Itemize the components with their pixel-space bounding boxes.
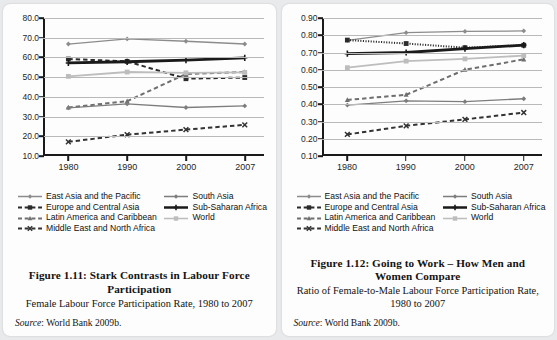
- data-point-marker: [521, 53, 526, 58]
- caption-left: Figure 1.11: Stark Contrasts in Labour F…: [3, 265, 276, 336]
- data-point-marker: [452, 205, 457, 211]
- legend-label: World: [192, 213, 214, 223]
- legend-item: South Asia: [163, 192, 233, 202]
- data-point-marker: [462, 29, 467, 34]
- legend-label: Latin America and Caribbean: [325, 213, 436, 223]
- source-text-right: : World Bank 2009b.: [320, 317, 400, 328]
- y-tick-label: 0.90: [301, 14, 318, 23]
- y-tick-mark: [39, 37, 44, 39]
- data-point-marker: [403, 59, 408, 64]
- y-tick-label: 0.50: [301, 83, 318, 92]
- x-tick-mark: [127, 156, 129, 161]
- legend-label: South Asia: [471, 192, 512, 202]
- source-label-right: Source: [294, 317, 320, 328]
- x-tick-label: 1980: [337, 163, 357, 172]
- data-point-marker: [174, 195, 178, 199]
- data-point-marker: [344, 38, 349, 43]
- legend-label: Sub-Saharan Africa: [192, 203, 267, 213]
- y-tick-mark: [318, 138, 323, 140]
- x-tick-mark: [405, 156, 407, 161]
- y-tick-mark: [39, 155, 44, 157]
- y-tick-label: 20.0: [22, 132, 39, 141]
- legend-marker-icon: [442, 214, 468, 223]
- plot-area-left: 10.020.030.040.050.060.070.080.019801990…: [43, 18, 264, 156]
- x-tick-mark: [185, 156, 187, 161]
- y-tick-label: 80.0: [22, 14, 39, 23]
- legend-label: South Asia: [192, 192, 233, 202]
- figure-title-right: Figure 1.12: Going to Work – How Men and…: [294, 257, 543, 284]
- legend-label: Europe and Central Asia: [325, 203, 418, 213]
- gridline: [43, 117, 264, 118]
- legend-item: Europe and Central Asia: [17, 203, 159, 213]
- legend-item: World: [163, 213, 214, 223]
- figure-source-right: Source: World Bank 2009b.: [294, 317, 543, 328]
- legend-item: Sub-Saharan Africa: [442, 203, 546, 213]
- data-point-marker: [242, 70, 247, 75]
- y-tick-mark: [318, 155, 323, 157]
- gridline: [322, 122, 543, 123]
- legend-marker-icon: [163, 203, 189, 212]
- figure-subtitle-right: Ratio of Female-to-Male Labour Force Par…: [294, 285, 543, 310]
- y-tick-mark: [39, 135, 44, 137]
- y-tick-label: 0.20: [301, 135, 318, 144]
- legend-item: Latin America and Caribbean: [296, 213, 438, 223]
- x-tick-mark: [68, 156, 70, 161]
- legend-marker-icon: [163, 214, 189, 223]
- legend-label: East Asia and the Pacific: [325, 192, 420, 202]
- series-line: [68, 39, 244, 44]
- data-point-marker: [453, 195, 457, 199]
- legend-marker-icon: [17, 214, 43, 223]
- legend-marker-icon: [17, 203, 43, 212]
- y-tick-mark: [318, 86, 323, 88]
- legend-item: Europe and Central Asia: [296, 203, 438, 213]
- y-tick-label: 50.0: [22, 73, 39, 82]
- x-tick-mark: [523, 156, 525, 161]
- data-point-marker: [306, 205, 310, 209]
- y-tick-mark: [318, 103, 323, 105]
- legend-label: Sub-Saharan Africa: [471, 203, 546, 213]
- data-point-marker: [66, 42, 71, 47]
- legend-label: World: [471, 213, 493, 223]
- chart-left: 10.020.030.040.050.060.070.080.019801990…: [7, 10, 272, 186]
- x-tick-label: 1990: [117, 163, 137, 172]
- y-tick-mark: [39, 96, 44, 98]
- x-tick-label: 2007: [514, 163, 534, 172]
- source-label-left: Source: [15, 317, 41, 328]
- legend-spacer: [442, 224, 548, 234]
- y-tick-mark: [39, 116, 44, 118]
- data-point-marker: [125, 70, 130, 75]
- figure-title-left: Figure 1.11: Stark Contrasts in Labour F…: [15, 269, 264, 296]
- data-point-marker: [403, 41, 408, 46]
- y-tick-mark: [318, 17, 323, 19]
- gridline: [322, 18, 543, 19]
- data-point-marker: [403, 98, 408, 103]
- legend-marker-icon: [442, 203, 468, 212]
- x-tick-mark: [346, 156, 348, 161]
- gridline: [322, 139, 543, 140]
- series-line: [347, 56, 523, 68]
- y-tick-label: 0.30: [301, 117, 318, 126]
- x-tick-label: 2000: [455, 163, 475, 172]
- y-tick-label: 30.0: [22, 112, 39, 121]
- gridline: [43, 136, 264, 137]
- legend-spacer: [163, 224, 269, 234]
- legend-marker-icon: [296, 214, 322, 223]
- figure-panel-right: 0.100.200.300.400.500.600.700.800.901980…: [282, 4, 555, 336]
- y-tick-label: 70.0: [22, 33, 39, 42]
- y-tick-label: 40.0: [22, 93, 39, 102]
- legend-item: Latin America and Caribbean: [17, 213, 159, 223]
- legend-marker-icon: [17, 192, 43, 201]
- figure-source-left: Source: World Bank 2009b.: [15, 317, 264, 328]
- y-tick-label: 60.0: [22, 53, 39, 62]
- series-line: [68, 125, 244, 142]
- gridline: [43, 57, 264, 58]
- data-point-marker: [184, 39, 189, 44]
- figure-page: 10.020.030.040.050.060.070.080.019801990…: [0, 0, 557, 340]
- data-point-marker: [174, 216, 178, 220]
- data-point-marker: [242, 42, 247, 47]
- y-tick-mark: [39, 57, 44, 59]
- x-tick-label: 1980: [58, 163, 78, 172]
- data-point-marker: [184, 70, 189, 75]
- y-tick-mark: [39, 17, 44, 19]
- data-point-marker: [306, 195, 310, 199]
